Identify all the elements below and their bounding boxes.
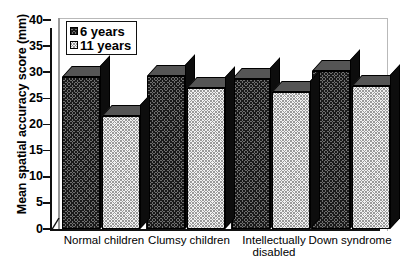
bar-side-face bbox=[225, 66, 235, 229]
bar-2-series-0[interactable] bbox=[232, 79, 270, 229]
light-dotted-swatch-icon bbox=[70, 41, 78, 49]
y-tick-label-25: 25 bbox=[15, 92, 43, 105]
y-tick-20 bbox=[43, 124, 51, 126]
plot-back-left-edge bbox=[58, 18, 60, 231]
y-tick-30 bbox=[43, 71, 51, 73]
bar-2-series-1[interactable] bbox=[272, 92, 310, 229]
y-tick-10 bbox=[43, 176, 51, 178]
y-tick-0 bbox=[43, 228, 51, 230]
x-axis-line bbox=[50, 229, 380, 231]
y-tick-label-15: 15 bbox=[15, 144, 43, 157]
y-tick-40 bbox=[43, 19, 51, 21]
legend: 6 years 11 years bbox=[66, 21, 137, 55]
bar-front-face bbox=[147, 76, 185, 229]
y-tick-label-40: 40 bbox=[15, 14, 43, 27]
bar-0-series-1[interactable] bbox=[102, 116, 140, 229]
bar-front-face bbox=[187, 88, 225, 229]
y-tick-25 bbox=[43, 98, 51, 100]
bar-side-face bbox=[310, 70, 320, 229]
bar-1-series-0[interactable] bbox=[147, 76, 185, 229]
bar-front-face bbox=[352, 86, 390, 229]
y-axis-line bbox=[50, 28, 52, 231]
y-axis-title: Mean spatial accuracy score (mm) bbox=[15, 0, 35, 229]
bar-front-face bbox=[232, 79, 270, 229]
y-tick-5 bbox=[43, 202, 51, 204]
legend-item-0[interactable]: 6 years bbox=[70, 24, 131, 38]
legend-item-1[interactable]: 11 years bbox=[70, 38, 131, 52]
dark-hatched-swatch-icon bbox=[70, 27, 78, 35]
bar-1-series-1[interactable] bbox=[187, 88, 225, 229]
bar-chart-figure: Mean spatial accuracy score (mm) 0510152… bbox=[0, 0, 404, 272]
y-tick-35 bbox=[43, 45, 51, 47]
y-tick-label-5: 5 bbox=[15, 196, 43, 209]
legend-label-0: 6 years bbox=[80, 25, 125, 38]
y-tick-label-30: 30 bbox=[15, 66, 43, 79]
x-category-separator-2 bbox=[311, 222, 312, 231]
bar-side-face bbox=[390, 64, 400, 229]
bar-front-face bbox=[102, 116, 140, 229]
bar-front-face bbox=[272, 92, 310, 229]
legend-label-1: 11 years bbox=[80, 39, 131, 52]
y-tick-label-20: 20 bbox=[15, 118, 43, 131]
x-category-separator-0 bbox=[146, 222, 147, 231]
x-category-label-3: Down syndrome bbox=[290, 234, 404, 246]
y-tick-label-0: 0 bbox=[15, 223, 43, 236]
axis-depth-connector bbox=[50, 218, 60, 231]
bar-0-series-0[interactable] bbox=[62, 77, 100, 229]
bar-3-series-1[interactable] bbox=[352, 86, 390, 229]
y-tick-15 bbox=[43, 150, 51, 152]
bar-front-face bbox=[62, 77, 100, 229]
x-category-separator-1 bbox=[231, 222, 232, 231]
y-tick-label-35: 35 bbox=[15, 40, 43, 53]
bar-side-face bbox=[140, 94, 150, 229]
y-tick-label-10: 10 bbox=[15, 170, 43, 183]
